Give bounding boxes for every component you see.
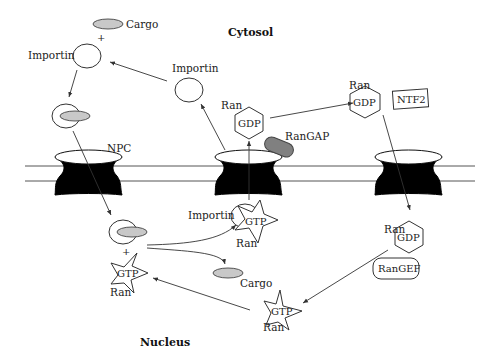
cargo-nucleus-label: Cargo xyxy=(240,277,272,289)
svg-text:GTP: GTP xyxy=(271,306,293,317)
svg-text:GTP: GTP xyxy=(245,216,267,227)
ntf2-label: NTF2 xyxy=(397,94,426,105)
svg-text:GDP: GDP xyxy=(238,118,261,129)
npc-pore-center xyxy=(215,150,282,195)
cargo-cytosol-label: Cargo xyxy=(126,18,158,30)
cargo-cytosol xyxy=(93,19,123,29)
svg-text:GTP: GTP xyxy=(117,268,139,279)
importin-complex-label: Importin xyxy=(188,209,235,221)
ran-complex-label: Ran xyxy=(236,237,257,249)
rangap-label: RanGAP xyxy=(285,130,329,142)
cytosol-label: Cytosol xyxy=(228,26,273,39)
plus-sign-top: + xyxy=(97,32,105,43)
nuclear-import-diagram: Cytosol Nucleus NPC Cargo + Importin Imp… xyxy=(0,0,498,364)
ran-left-label: Ran xyxy=(110,286,131,298)
ran-nucleus-label: Ran xyxy=(384,223,405,235)
ran-bottom-label: Ran xyxy=(263,321,284,333)
ran-gdp-hexagon-center: GDP xyxy=(235,107,263,139)
nucleus-label: Nucleus xyxy=(140,336,190,349)
importin-recycled xyxy=(175,78,203,102)
plus-sign-bottom: + xyxy=(122,246,130,257)
ran-center-label: Ran xyxy=(221,99,242,111)
npc-pore-left xyxy=(55,150,122,195)
importin-left-label: Importin xyxy=(28,49,75,61)
cargo-nucleus xyxy=(213,268,243,278)
importin-recycled-label: Importin xyxy=(172,62,219,74)
rangef-label: RanGEF xyxy=(378,263,420,274)
importin-cargo-complex-nucleus xyxy=(109,220,147,244)
importin-cargo-complex-cytosol xyxy=(52,104,90,128)
importin-free xyxy=(73,44,101,68)
npc-pore-right xyxy=(375,150,442,195)
ran-right-label: Ran xyxy=(349,79,370,91)
svg-text:GDP: GDP xyxy=(353,97,376,108)
npc-label: NPC xyxy=(107,142,131,154)
